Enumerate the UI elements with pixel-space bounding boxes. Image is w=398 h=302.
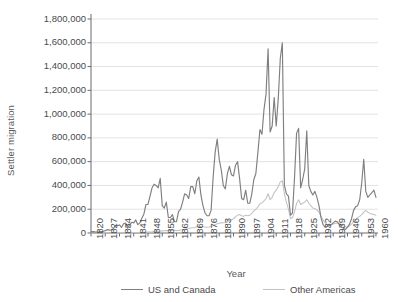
- x-axis-tick-label: 1946: [351, 218, 361, 239]
- x-axis-tick-label: 1918: [294, 218, 304, 239]
- x-axis-tick-label: 1939: [337, 218, 347, 239]
- x-axis-tick-label: 1911: [280, 219, 290, 239]
- legend-label: Other Americas: [290, 284, 355, 295]
- x-axis-tick-label: 1883: [223, 218, 233, 239]
- x-axis-tick-label: 1820: [95, 218, 105, 239]
- x-axis-tick-label: 1960: [380, 218, 390, 239]
- x-axis-tick-label: 1862: [180, 218, 190, 239]
- x-axis-tick-label: 1869: [195, 218, 205, 239]
- legend-label: US and Canada: [148, 284, 216, 295]
- x-axis-tick-label: 1953: [366, 218, 376, 239]
- x-axis-tick-label: 1925: [309, 218, 319, 239]
- x-axis-tick-label: 1827: [109, 218, 119, 239]
- x-axis-tick-label: 1834: [123, 218, 133, 239]
- x-axis-tick-label: 1841: [138, 218, 148, 239]
- x-axis-tick-label: 1904: [266, 218, 276, 239]
- x-axis-tick-label: 1876: [209, 218, 219, 239]
- x-axis-tick-label: 1848: [152, 218, 162, 239]
- legend-line-swatch: [263, 289, 285, 290]
- legend-item: US and Canada: [121, 284, 216, 295]
- x-axis-tick-label: 1897: [252, 218, 262, 239]
- legend-line-swatch: [121, 289, 143, 290]
- settler-migration-chart: Settler migration 0200,000400,000600,000…: [0, 0, 398, 302]
- legend-item: Other Americas: [263, 284, 355, 295]
- chart-legend: US and CanadaOther Americas: [91, 283, 381, 297]
- x-axis-tick-label: 1932: [323, 218, 333, 239]
- x-axis-tick-label: 1855: [166, 218, 176, 239]
- x-axis-tick-labels: 1820182718341841184818551862186918761883…: [0, 0, 398, 302]
- x-axis-label: Year: [91, 268, 381, 279]
- x-axis-tick-label: 1890: [237, 218, 247, 239]
